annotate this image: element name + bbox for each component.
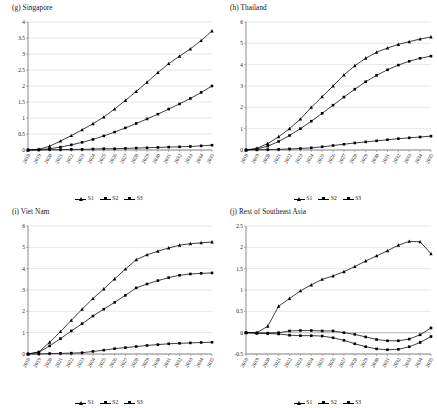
data-point-marker	[375, 338, 378, 341]
x-axis-tick-label: 2025	[97, 356, 108, 368]
data-point-marker	[167, 108, 170, 111]
legend-entry-s2: S2	[318, 196, 336, 202]
x-axis-tick-label: 2022	[64, 356, 75, 368]
data-point-marker	[288, 334, 291, 337]
x-axis-tick-label: 2032	[391, 356, 402, 368]
data-point-marker	[189, 145, 192, 148]
data-point-marker	[124, 147, 127, 150]
line-chart-rest-of-southeast-asia: -0.500.511.522.5201820192020202120222023…	[218, 204, 437, 408]
data-point-marker	[113, 301, 116, 304]
data-point-marker	[430, 135, 433, 138]
series-line-s1	[28, 242, 212, 354]
x-axis-tick-label: 2030	[369, 356, 380, 368]
x-axis-tick-label: 2019	[32, 152, 43, 164]
data-point-marker	[102, 147, 105, 150]
data-point-marker	[135, 345, 138, 348]
x-axis-tick-label: 2028	[129, 152, 140, 164]
data-point-marker	[200, 91, 203, 94]
x-axis-tick-label: 2025	[315, 356, 326, 368]
x-axis-tick-label: 2018	[21, 152, 32, 164]
x-axis-tick-label: 2020	[43, 356, 54, 368]
x-axis-tick-label: 2032	[391, 152, 402, 164]
y-axis-tick-label: 4	[240, 62, 243, 68]
legend-entry-s2: S2	[100, 400, 118, 406]
x-axis-tick-label: 2033	[183, 356, 194, 368]
x-axis-tick-label: 2034	[194, 356, 205, 368]
x-axis-tick-label: 2031	[162, 356, 173, 368]
data-point-marker	[59, 352, 62, 355]
x-axis-tick-label: 2022	[282, 356, 293, 368]
data-point-marker	[332, 144, 335, 147]
data-point-marker	[146, 344, 149, 347]
data-point-marker	[92, 315, 95, 318]
series-line-s1	[246, 37, 431, 150]
data-point-marker	[210, 29, 213, 32]
data-point-marker	[124, 127, 127, 130]
legend-entry-s2: S2	[100, 196, 118, 202]
legend-label: S2	[331, 400, 337, 406]
data-point-marker	[48, 148, 51, 151]
legend-marker-triangle-icon	[75, 401, 86, 406]
data-point-marker	[277, 304, 280, 307]
legend-entry-s1: S1	[294, 400, 312, 406]
data-point-marker	[178, 146, 181, 149]
data-point-marker	[343, 331, 346, 334]
x-axis-tick-label: 2022	[64, 152, 75, 164]
data-point-marker	[353, 64, 356, 67]
data-point-marker	[310, 120, 313, 123]
line-chart-singapore: 00.511.522.533.5420182019202020212022202…	[0, 0, 218, 204]
legend-singapore: S1 S2 S3	[0, 196, 218, 202]
data-point-marker	[430, 335, 433, 338]
x-axis-tick-label: 2034	[413, 356, 424, 368]
data-point-marker	[189, 342, 192, 345]
data-point-marker	[343, 143, 346, 146]
data-point-marker	[245, 331, 248, 334]
data-point-marker	[266, 332, 269, 335]
y-axis-tick-label: 5	[22, 244, 25, 250]
x-axis-tick-label: 2021	[53, 356, 64, 368]
data-point-marker	[364, 345, 367, 348]
legend-label: S1	[306, 400, 312, 406]
plot-area-rest-of-southeast-asia: -0.500.511.522.5201820192020202120222023…	[218, 204, 437, 408]
data-point-marker	[146, 118, 149, 121]
data-point-marker	[386, 138, 389, 141]
data-point-marker	[70, 352, 73, 355]
y-axis-tick-label: 2.5	[18, 67, 25, 73]
data-point-marker	[211, 341, 214, 344]
data-point-marker	[81, 351, 84, 354]
x-axis-tick-label: 2023	[75, 152, 86, 164]
data-point-marker	[288, 134, 291, 137]
data-point-marker	[211, 144, 214, 147]
x-axis-tick-label: 2035	[205, 152, 216, 164]
data-point-marker	[375, 74, 378, 77]
data-point-marker	[321, 335, 324, 338]
series-line-s1	[28, 31, 212, 150]
x-axis-tick-label: 2035	[424, 356, 435, 368]
plot-area-thailand: 0123456201820192020202120222023202420252…	[218, 0, 437, 204]
data-point-marker	[429, 35, 432, 38]
data-point-marker	[167, 146, 170, 149]
legend-marker-square-icon	[100, 197, 111, 202]
y-axis-tick-label: 0	[240, 330, 243, 336]
data-point-marker	[299, 329, 302, 332]
data-point-marker	[211, 272, 214, 275]
data-point-marker	[124, 294, 127, 297]
y-axis-tick-label: 6	[240, 19, 243, 25]
data-point-marker	[48, 352, 51, 355]
legend-entry-s1: S1	[75, 196, 93, 202]
data-point-marker	[70, 144, 73, 147]
panel-h-thailand: (h) Thailand 012345620182019202020212022…	[218, 0, 437, 204]
legend-marker-square-icon	[318, 401, 329, 406]
x-axis-tick-label: 2033	[402, 152, 413, 164]
data-point-marker	[430, 327, 433, 330]
x-axis-tick-label: 2031	[380, 356, 391, 368]
data-point-marker	[299, 334, 302, 337]
data-point-marker	[408, 137, 411, 140]
data-point-marker	[386, 68, 389, 71]
data-point-marker	[102, 308, 105, 311]
legend-label: S2	[112, 196, 118, 202]
data-point-marker	[299, 127, 302, 130]
data-point-marker	[419, 334, 422, 337]
data-point-marker	[81, 141, 84, 144]
data-point-marker	[277, 148, 280, 151]
